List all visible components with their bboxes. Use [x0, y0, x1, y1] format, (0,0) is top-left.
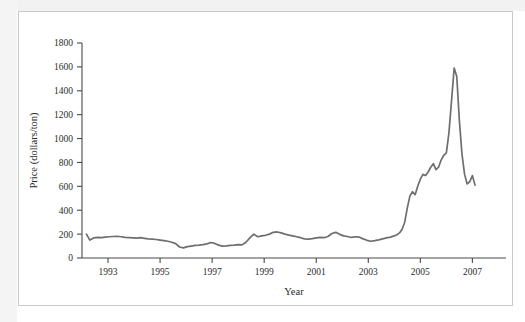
- price-series-line: [86, 68, 475, 248]
- y-tick-label: 1400: [54, 86, 73, 96]
- figure-frame: 020040060080010001200140016001800 199319…: [18, 11, 513, 306]
- x-tick-label: 2005: [411, 267, 430, 277]
- y-axis-title: Price (dollars/ton): [28, 112, 40, 189]
- y-tick-label: 400: [59, 206, 74, 216]
- page-top-margin-band: [0, 0, 525, 11]
- x-tick-label: 2007: [463, 267, 482, 277]
- y-tick-label: 1800: [54, 38, 73, 48]
- page-left-margin-band: [0, 0, 17, 322]
- y-axis-ticks: 020040060080010001200140016001800: [54, 38, 82, 263]
- y-tick-label: 200: [59, 230, 74, 240]
- y-tick-label: 600: [59, 182, 74, 192]
- y-tick-label: 0: [68, 253, 73, 263]
- price-over-time-line-chart: 020040060080010001200140016001800 199319…: [19, 12, 514, 307]
- y-tick-label: 1600: [54, 62, 73, 72]
- x-tick-label: 1997: [203, 267, 222, 277]
- y-tick-label: 1000: [54, 134, 73, 144]
- x-tick-label: 2003: [359, 267, 378, 277]
- x-tick-label: 1999: [255, 267, 274, 277]
- y-tick-label: 800: [59, 158, 74, 168]
- y-tick-label: 1200: [54, 110, 73, 120]
- x-axis-ticks: 19931995199719992001200320052007: [99, 258, 483, 277]
- screenshot-root: 020040060080010001200140016001800 199319…: [0, 0, 525, 322]
- figure-caption: [22, 312, 362, 321]
- x-tick-label: 1995: [151, 267, 170, 277]
- x-axis-title: Year: [284, 286, 304, 297]
- x-tick-label: 2001: [307, 267, 326, 277]
- x-tick-label: 1993: [99, 267, 118, 277]
- chart-canvas: 020040060080010001200140016001800 199319…: [19, 12, 514, 307]
